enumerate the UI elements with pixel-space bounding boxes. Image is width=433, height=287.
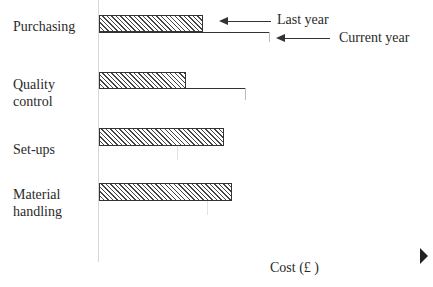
bar-last-year-set-ups <box>99 128 224 146</box>
faint-tick <box>177 146 178 160</box>
x-axis-label: Cost (£ ) <box>270 260 319 276</box>
legend-last-year: Last year <box>277 12 329 28</box>
line-current-year-purchasing <box>99 32 270 33</box>
line-end-tick <box>245 88 246 100</box>
category-label-line-2: handling <box>13 203 62 220</box>
line-current-year-quality-control <box>99 88 246 89</box>
category-label-purchasing: Purchasing <box>13 18 75 35</box>
arrow-left-icon <box>225 21 271 22</box>
next-arrow-icon[interactable] <box>420 248 428 264</box>
legend-current-year: Current year <box>339 30 409 46</box>
bar-last-year-quality-control <box>99 72 186 89</box>
category-label-line-1: Material <box>13 186 62 203</box>
category-label-line-2: control <box>13 93 55 110</box>
faint-tick <box>207 201 208 215</box>
arrow-left-icon <box>282 38 330 39</box>
category-label-set-ups: Set-ups <box>13 141 55 158</box>
category-label-material-handling: Material handling <box>13 186 62 220</box>
line-end-tick <box>269 32 270 42</box>
category-label-line-1: Quality <box>13 76 55 93</box>
bar-last-year-material-handling <box>99 183 232 201</box>
bar-last-year-purchasing <box>99 15 203 32</box>
category-label-quality-control: Quality control <box>13 76 55 110</box>
